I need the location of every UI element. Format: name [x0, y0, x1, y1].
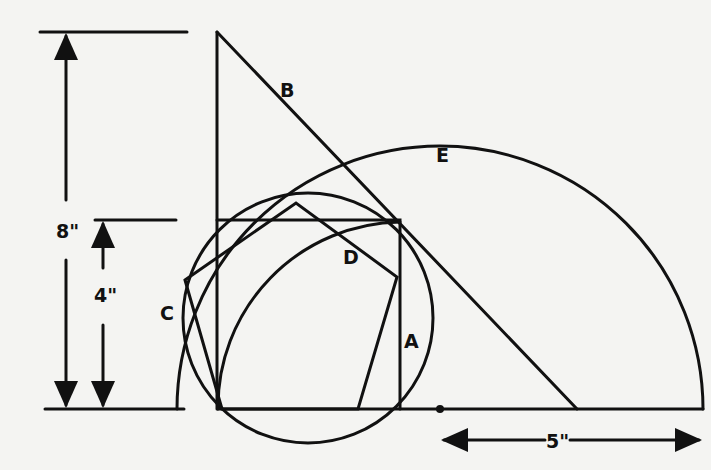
label-4-inch: 4"	[94, 284, 117, 306]
label-d: D	[343, 246, 359, 268]
geometry-diagram: 8" 4" 5" B E D C A	[0, 0, 711, 470]
center-point	[436, 405, 444, 413]
label-b: B	[280, 79, 294, 101]
semicircle-e	[177, 146, 703, 409]
label-a: A	[404, 330, 419, 352]
label-8-inch: 8"	[56, 220, 79, 242]
label-5-inch: 5"	[546, 430, 569, 452]
dimension-5-inch: 5"	[444, 430, 699, 452]
arc-a	[218, 222, 400, 409]
label-c: C	[160, 302, 174, 324]
label-e: E	[436, 144, 449, 166]
